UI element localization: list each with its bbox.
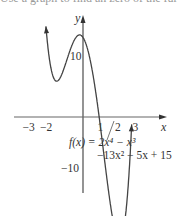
x-tick-label: −3 xyxy=(23,121,35,133)
y-tick-label: 10 xyxy=(70,50,82,62)
x-tick-label: −2 xyxy=(40,121,52,133)
y-axis-arrow-icon xyxy=(81,15,86,23)
x-axis-label: x xyxy=(160,120,167,134)
x-ticks: −3−2123 xyxy=(23,121,139,133)
y-axis-label: y xyxy=(74,11,81,25)
function-graph: −3−2123 10−10 y x f(x) = 2x⁴ − x³ −13x² … xyxy=(0,0,177,216)
function-label-line2: −13x² − 5x + 15 xyxy=(97,149,172,161)
x-axis-arrow-icon xyxy=(159,115,167,120)
function-label-line1: f(x) = 2x⁴ − x³ xyxy=(69,136,136,149)
y-tick-label: −10 xyxy=(61,162,79,174)
x-tick-label: 2 xyxy=(115,121,121,133)
